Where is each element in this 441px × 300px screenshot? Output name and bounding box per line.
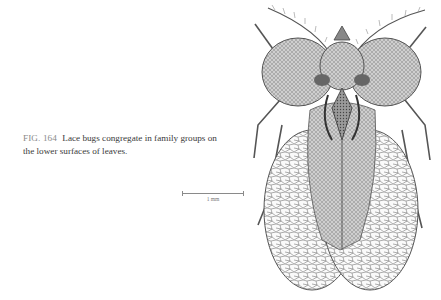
scale-label: 1 mm — [182, 196, 244, 202]
lace-bug-illustration-icon — [240, 0, 441, 300]
scale-line — [182, 193, 244, 194]
scale-bar: 1 mm — [182, 190, 244, 206]
figure-number: FIG. 164 — [23, 133, 57, 143]
figure-caption: FIG. 164 Lace bugs congregate in family … — [23, 132, 223, 158]
